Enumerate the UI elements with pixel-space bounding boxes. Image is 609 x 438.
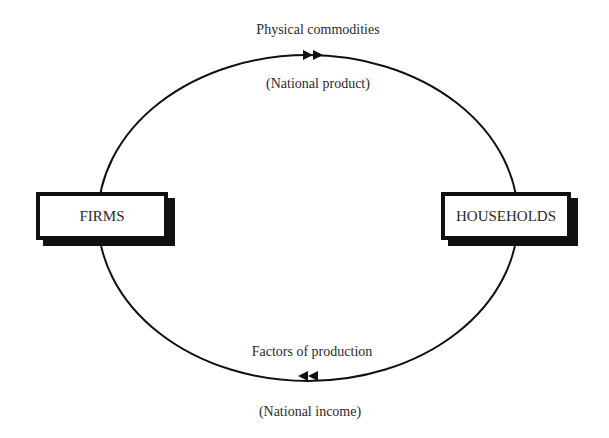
top-flow-label: Physical commodities xyxy=(256,22,379,38)
bottom-flow-sublabel: (National income) xyxy=(259,404,361,420)
firms-label: FIRMS xyxy=(79,208,124,225)
households-node: HOUSEHOLDS xyxy=(441,192,571,240)
bottom-flow-label: Factors of production xyxy=(252,344,373,360)
firms-node: FIRMS xyxy=(36,192,168,240)
top-flow-sublabel: (National product) xyxy=(266,76,370,92)
households-label: HOUSEHOLDS xyxy=(456,208,556,225)
right-arrow-icon xyxy=(303,50,323,60)
left-arrow-icon xyxy=(298,371,318,381)
